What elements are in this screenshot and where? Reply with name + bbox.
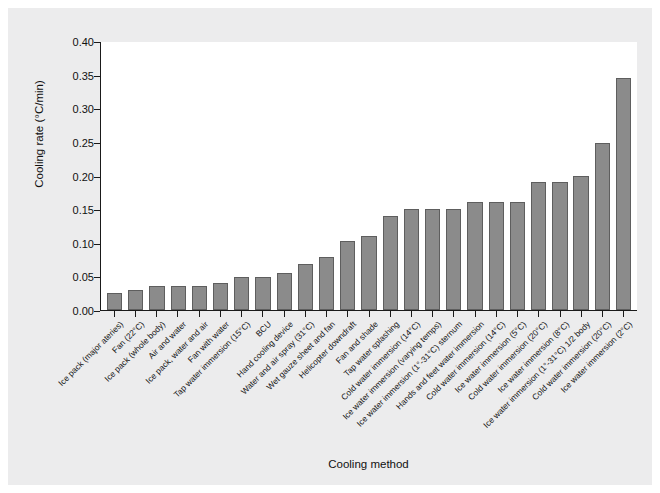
bar[interactable] [404, 209, 419, 310]
y-axis-tick-label: 0.10 [73, 238, 94, 250]
bar-slot [337, 42, 358, 310]
bar[interactable] [149, 286, 164, 310]
figure-canvas: Cooling rate (°C/min) 0.000.050.100.150.… [8, 8, 652, 485]
x-axis-tick-mark [432, 311, 433, 317]
x-axis-tick-mark [560, 311, 561, 317]
x-axis-tick-mark [496, 311, 497, 317]
bar-slot [486, 42, 507, 310]
bar-slot [592, 42, 613, 310]
x-axis-tick-mark [156, 311, 157, 317]
bar[interactable] [298, 264, 313, 310]
bar[interactable] [616, 78, 631, 310]
bar[interactable] [489, 202, 504, 310]
y-axis-tick-label: 0.25 [73, 137, 94, 149]
x-axis-tick-mark [347, 311, 348, 317]
y-axis-tick-label: 0.30 [73, 103, 94, 115]
bar-series [101, 42, 637, 310]
bar[interactable] [277, 273, 292, 310]
x-axis-tick-mark [517, 311, 518, 317]
x-axis-label: Cooling method [100, 458, 637, 470]
bar-slot [210, 42, 231, 310]
bar[interactable] [467, 202, 482, 310]
bar-slot [380, 42, 401, 310]
x-axis-tick-mark [411, 311, 412, 317]
bar-slot [528, 42, 549, 310]
x-axis-tick-mark [220, 311, 221, 317]
bar-slot [613, 42, 634, 310]
bar[interactable] [531, 182, 546, 310]
bar-slot [295, 42, 316, 310]
x-axis-tick-mark [135, 311, 136, 317]
bar-slot [168, 42, 189, 310]
x-axis-tick-mark [623, 311, 624, 317]
x-axis-tick-mark [538, 311, 539, 317]
bar[interactable] [383, 216, 398, 310]
x-axis-tick-mark [453, 311, 454, 317]
bar-slot [189, 42, 210, 310]
x-axis-tick-mark [241, 311, 242, 317]
x-axis-tick-mark [114, 311, 115, 317]
bar-slot [231, 42, 252, 310]
y-axis-tick-label: 0.35 [73, 70, 94, 82]
x-axis-tick-mark [326, 311, 327, 317]
bar-slot [443, 42, 464, 310]
bar[interactable] [192, 286, 207, 310]
bar[interactable] [425, 209, 440, 310]
bar-slot [146, 42, 167, 310]
y-axis-tick-label: 0.05 [73, 271, 94, 283]
bar-slot [104, 42, 125, 310]
x-axis-tick-mark [581, 311, 582, 317]
x-axis-tick-mark [262, 311, 263, 317]
bar[interactable] [361, 236, 376, 310]
bar-slot [358, 42, 379, 310]
x-axis-tick-mark [475, 311, 476, 317]
bar[interactable] [573, 176, 588, 311]
bar[interactable] [255, 277, 270, 310]
x-axis-tick-mark [390, 311, 391, 317]
bar-slot [570, 42, 591, 310]
y-axis-tick-label: 0.00 [73, 305, 94, 317]
bar-slot [316, 42, 337, 310]
bar-slot [549, 42, 570, 310]
bar[interactable] [552, 182, 567, 310]
bar-slot [422, 42, 443, 310]
x-axis-tick-mark [369, 311, 370, 317]
x-axis-tick-labels: Ice pack (major ateries)Fan (22°C)Ice pa… [100, 319, 637, 439]
y-axis-label: Cooling rate (°C/min) [33, 29, 45, 239]
bar[interactable] [446, 209, 461, 310]
bar-slot [464, 42, 485, 310]
bar-slot [252, 42, 273, 310]
bar[interactable] [340, 241, 355, 310]
y-axis-tick-label: 0.20 [73, 171, 94, 183]
x-axis-tick-mark [602, 311, 603, 317]
bar[interactable] [595, 143, 610, 310]
bar-slot [274, 42, 295, 310]
plot-area [100, 42, 637, 311]
x-axis-tick-mark [177, 311, 178, 317]
bar-slot [401, 42, 422, 310]
figure-page: Cooling rate (°C/min) 0.000.050.100.150.… [0, 0, 660, 493]
x-axis-tick-mark [199, 311, 200, 317]
bar[interactable] [510, 202, 525, 310]
bar[interactable] [213, 283, 228, 310]
y-axis-tick-label: 0.15 [73, 204, 94, 216]
x-axis-tick-mark [284, 311, 285, 317]
bar[interactable] [319, 257, 334, 310]
y-axis-tick-label: 0.40 [73, 36, 94, 48]
bar[interactable] [107, 293, 122, 310]
y-axis-ticks: 0.000.050.100.150.200.250.300.350.40 [48, 42, 94, 311]
x-axis-tick-mark [305, 311, 306, 317]
bar[interactable] [234, 277, 249, 310]
bar[interactable] [171, 286, 186, 310]
bar-slot [507, 42, 528, 310]
bar-slot [125, 42, 146, 310]
bar[interactable] [128, 290, 143, 310]
